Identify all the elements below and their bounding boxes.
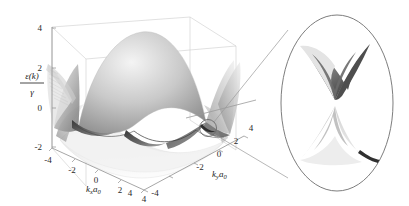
z-tick-minus2: -2 xyxy=(35,142,43,152)
x-axis-title-sub2: 0 xyxy=(97,188,101,195)
y-tick-minus2: -2 xyxy=(196,162,204,172)
z-tick-0: 0 xyxy=(38,103,43,113)
band-structure-figure: 4 2 0 -2 ε(k) γ -4 -2 0 2 4 kxa0 xyxy=(0,0,409,206)
svg-text:kya0: kya0 xyxy=(212,169,227,180)
y-axis-title-sub2: 0 xyxy=(223,173,227,180)
dirac-cone-inset xyxy=(281,15,393,191)
main-plot-3d: 4 2 0 -2 ε(k) γ -4 -2 0 2 4 kxa0 xyxy=(20,17,256,204)
z-axis-label-numerator: ε(k) xyxy=(25,71,39,81)
y-tick-4: 4 xyxy=(249,123,254,133)
x-tick-4: 4 xyxy=(142,194,147,204)
x-tick-minus4: -4 xyxy=(44,155,52,165)
z-axis-label: ε(k) γ xyxy=(20,71,44,97)
x-axis-title: kxa0 xyxy=(86,184,101,195)
z-tick-4: 4 xyxy=(38,23,43,33)
connector-lower xyxy=(214,134,288,178)
x-tick-minus2: -2 xyxy=(68,165,76,175)
y-axis-title: kya0 xyxy=(212,169,227,180)
x-tick-2: 2 xyxy=(118,185,123,195)
figure-canvas: 4 2 0 -2 ε(k) γ -4 -2 0 2 4 kxa0 xyxy=(0,0,409,206)
y-tick-0: 0 xyxy=(217,149,222,159)
z-axis-label-denominator: γ xyxy=(30,87,34,97)
y-tick-minus4: -4 xyxy=(151,188,159,198)
y-tick-2: 2 xyxy=(234,136,239,146)
corner-tick-4: 4 xyxy=(128,188,133,198)
svg-text:kxa0: kxa0 xyxy=(86,184,101,195)
